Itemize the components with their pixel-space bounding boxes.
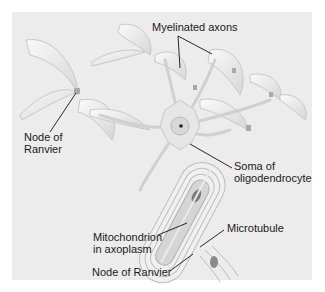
label-node-of-ranvier-left-2: Ranvier	[24, 143, 62, 155]
label-mitochondrion-1: Mitochondrion	[93, 231, 162, 243]
label-microtubule: Microtubule	[227, 222, 284, 234]
label-soma-1: Soma of	[234, 160, 275, 172]
label-soma-2: oligodendrocyte	[234, 172, 312, 184]
soma	[160, 100, 200, 150]
axon-end	[200, 246, 238, 282]
label-node-of-ranvier-bottom: Node of Ranvier	[92, 266, 172, 278]
label-node-of-ranvier-left-1: Node of	[24, 131, 63, 143]
label-mitochondrion-2: in axoplasm	[93, 243, 152, 255]
label-myelinated-axons: Myelinated axons	[152, 21, 238, 33]
